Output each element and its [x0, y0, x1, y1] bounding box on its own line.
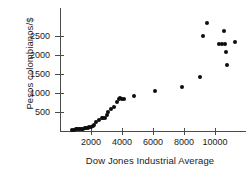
data-point [223, 42, 227, 46]
data-point [112, 105, 116, 109]
data-points-layer [0, 0, 249, 177]
x-axis-label: Dow Jones Industrial Average [60, 155, 240, 166]
data-point [122, 97, 126, 101]
data-point [198, 75, 202, 79]
data-point [205, 21, 209, 25]
data-point [233, 40, 237, 44]
data-point [201, 34, 205, 38]
scatter-chart: Pesos colombianos/$ 5001000150020002500 … [0, 0, 249, 177]
data-point [180, 85, 184, 89]
data-point [222, 29, 226, 33]
data-point [132, 94, 136, 98]
data-point [225, 63, 229, 67]
data-point [153, 89, 157, 93]
data-point [224, 50, 228, 54]
